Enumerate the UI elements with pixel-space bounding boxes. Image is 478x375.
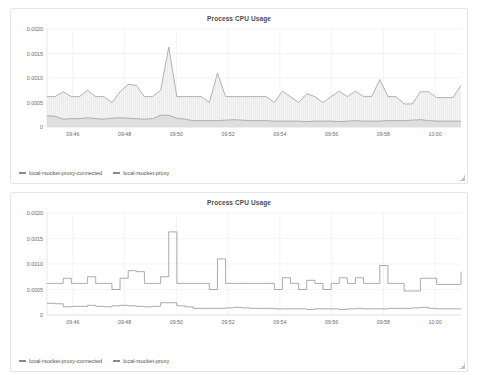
panel-title: Process CPU Usage xyxy=(11,9,467,23)
panel-process-cpu-usage-step[interactable]: Process CPU Usage 00.00050.00100.00150.0… xyxy=(10,192,468,372)
svg-text:0: 0 xyxy=(40,124,43,130)
legend-item-connected[interactable]: local-rsocket-proxy-connected xyxy=(19,169,102,177)
svg-text:09:48: 09:48 xyxy=(118,131,131,137)
dashboard-panels: Process CPU Usage 00.00050.00100.00150.0… xyxy=(0,0,478,375)
chart-legend-top: local-rsocket-proxy-connected local-rsoc… xyxy=(19,169,169,177)
legend-label: local-rsocket-proxy-connected xyxy=(29,357,102,365)
svg-text:09:58: 09:58 xyxy=(377,131,390,137)
panel-process-cpu-usage-area[interactable]: Process CPU Usage 00.00050.00100.00150.0… xyxy=(10,8,468,184)
svg-text:09:46: 09:46 xyxy=(66,131,79,137)
svg-text:09:56: 09:56 xyxy=(325,131,338,137)
legend-label: local-rsocket-proxy xyxy=(123,357,169,365)
svg-text:0.0005: 0.0005 xyxy=(27,100,43,106)
svg-text:09:56: 09:56 xyxy=(325,319,338,325)
legend-item-proxy[interactable]: local-rsocket-proxy xyxy=(113,169,169,177)
svg-text:09:46: 09:46 xyxy=(66,319,79,325)
svg-text:0.0010: 0.0010 xyxy=(27,261,43,267)
chart-legend-bottom: local-rsocket-proxy-connected local-rsoc… xyxy=(19,357,169,365)
svg-text:0.0020: 0.0020 xyxy=(27,210,43,216)
legend-label: local-rsocket-proxy xyxy=(123,169,169,177)
svg-text:0.0015: 0.0015 xyxy=(27,51,43,57)
legend-label: local-rsocket-proxy-connected xyxy=(29,169,102,177)
chart-plot-area-bottom[interactable]: 00.00050.00100.00150.002009:4609:4809:50… xyxy=(11,207,467,339)
svg-text:09:50: 09:50 xyxy=(170,131,183,137)
svg-text:09:50: 09:50 xyxy=(170,319,183,325)
svg-text:0.0020: 0.0020 xyxy=(27,26,43,32)
legend-swatch-icon xyxy=(19,172,26,174)
svg-text:10:00: 10:00 xyxy=(428,131,441,137)
panel-title: Process CPU Usage xyxy=(11,193,467,207)
resize-grip-icon[interactable] xyxy=(458,362,465,369)
chart-svg-top: 00.00050.00100.00150.002009:4609:4809:50… xyxy=(11,23,467,151)
svg-text:0.0010: 0.0010 xyxy=(27,75,43,81)
legend-item-proxy[interactable]: local-rsocket-proxy xyxy=(113,357,169,365)
legend-swatch-icon xyxy=(113,172,120,174)
svg-text:09:58: 09:58 xyxy=(377,319,390,325)
svg-text:0.0005: 0.0005 xyxy=(27,287,43,293)
svg-text:0.0015: 0.0015 xyxy=(27,236,43,242)
chart-svg-bottom: 00.00050.00100.00150.002009:4609:4809:50… xyxy=(11,207,467,339)
svg-text:0: 0 xyxy=(40,312,43,318)
svg-text:09:48: 09:48 xyxy=(118,319,131,325)
svg-text:10:00: 10:00 xyxy=(428,319,441,325)
svg-text:09:54: 09:54 xyxy=(273,131,286,137)
svg-text:09:52: 09:52 xyxy=(221,319,234,325)
legend-swatch-icon xyxy=(113,360,120,362)
legend-swatch-icon xyxy=(19,360,26,362)
svg-text:09:52: 09:52 xyxy=(221,131,234,137)
resize-grip-icon[interactable] xyxy=(458,174,465,181)
svg-text:09:54: 09:54 xyxy=(273,319,286,325)
chart-plot-area-top[interactable]: 00.00050.00100.00150.002009:4609:4809:50… xyxy=(11,23,467,151)
legend-item-connected[interactable]: local-rsocket-proxy-connected xyxy=(19,357,102,365)
